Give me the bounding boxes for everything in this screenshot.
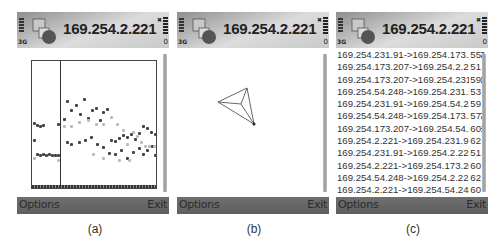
signal-strength-icon (338, 18, 343, 32)
data-point (114, 140, 117, 143)
data-point (106, 108, 109, 111)
data-point (122, 134, 125, 137)
data-point (33, 139, 36, 142)
data-point (75, 104, 78, 107)
caption-c: (c) (393, 222, 433, 236)
data-point (102, 146, 105, 149)
network-type: 3G (337, 38, 346, 45)
data-point (96, 143, 99, 146)
data-point (134, 138, 137, 141)
data-point (110, 139, 113, 142)
list-item[interactable]: 169.254.54.248->169.254.2.22162 (337, 172, 481, 184)
data-point (70, 109, 73, 112)
exit-button[interactable]: Exit (466, 198, 486, 211)
data-point (66, 100, 69, 103)
data-point (132, 151, 135, 154)
graph-node (253, 123, 256, 126)
data-point (126, 136, 129, 139)
data-point (102, 157, 105, 160)
indicator-icon: ✖ (476, 16, 481, 23)
data-point (146, 127, 149, 130)
graph-edge (218, 102, 254, 124)
list-item[interactable]: 169.254.231.91->169.254.173.20755 (337, 49, 481, 61)
list-item[interactable]: 169.254.173.207->169.254.231.9159 (337, 74, 481, 86)
options-button[interactable]: Options (179, 198, 219, 211)
topology-graph (177, 12, 323, 197)
softkey-bar: Options Exit (17, 197, 169, 214)
phone-screen-b: 3G 169.254.2.221 ✖0 Options Exit (177, 12, 329, 215)
status-header: 3G 169.254.2.221 ✖0 (17, 12, 169, 48)
list-item[interactable]: 169.254.173.207->169.254.2.22151 (337, 61, 481, 73)
network-type: 3G (18, 38, 27, 45)
list-item[interactable]: 169.254.231.91->169.254.54.24859 (337, 98, 481, 110)
data-point (92, 153, 95, 156)
data-point (70, 125, 73, 128)
battery-label: 0 (324, 38, 328, 46)
page-title: 169.254.2.221 (382, 20, 475, 37)
data-point (110, 116, 113, 119)
softkey-bar: Options Exit (177, 197, 329, 214)
data-point (84, 139, 87, 142)
data-point (153, 145, 156, 148)
battery-label: 0 (164, 38, 168, 46)
data-point (116, 123, 119, 126)
data-point (102, 111, 105, 114)
data-point (146, 149, 149, 152)
data-point (154, 154, 157, 157)
data-point (42, 124, 45, 127)
data-point (122, 129, 125, 132)
exit-button[interactable]: Exit (147, 198, 167, 211)
data-point (87, 119, 90, 122)
data-point (78, 141, 81, 144)
status-header: 3G 169.254.2.221 ✖0 (336, 12, 488, 48)
page-title: 169.254.2.221 (63, 20, 156, 37)
data-point (83, 98, 86, 101)
link-list: 169.254.231.91->169.254.173.20755 169.25… (337, 49, 481, 197)
scrollbar[interactable] (482, 54, 486, 192)
data-point (95, 107, 98, 110)
list-item[interactable]: 169.254.54.248->169.254.231.9153 (337, 86, 481, 98)
data-point (118, 159, 121, 162)
options-button[interactable]: Options (338, 198, 378, 211)
data-point (63, 118, 66, 121)
data-point (57, 154, 60, 157)
phone-screen-a: 3G 169.254.2.221 ✖0 Options Exit (17, 12, 169, 215)
list-item[interactable]: 169.254.2.221->169.254.54.24860 (337, 184, 481, 196)
scrollbar[interactable] (163, 54, 167, 192)
battery-icon (482, 17, 487, 35)
data-point (79, 113, 82, 116)
options-button[interactable]: Options (19, 198, 59, 211)
exit-button[interactable]: Exit (307, 198, 327, 211)
data-point (150, 131, 153, 134)
data-point (138, 147, 141, 150)
phone-screen-c: 3G 169.254.2.221 ✖0 169.254.231.91->169.… (336, 12, 488, 215)
data-point (154, 133, 157, 136)
rssi-dot-plot (31, 60, 157, 189)
data-point (66, 141, 69, 144)
list-item[interactable]: 169.254.2.221->169.254.173.20760 (337, 160, 481, 172)
data-point (102, 123, 105, 126)
data-point (91, 109, 94, 112)
data-point (136, 135, 139, 138)
list-item[interactable]: 169.254.173.207->169.254.54.24860 (337, 123, 481, 135)
list-item[interactable]: 169.254.231.91->169.254.2.22151 (337, 147, 481, 159)
data-point (132, 131, 135, 134)
caption-a: (a) (75, 222, 115, 236)
softkey-bar: Options Exit (336, 197, 488, 214)
app-puzzle-icon (29, 16, 61, 46)
data-point (90, 136, 93, 139)
data-point (63, 125, 66, 128)
scrollbar[interactable] (323, 54, 327, 192)
signal-strength-icon (19, 18, 24, 32)
list-item[interactable]: 169.254.54.248->169.254.173.20757 (337, 110, 481, 122)
list-item[interactable]: 169.254.2.221->169.254.231.9162 (337, 135, 481, 147)
data-point (57, 159, 60, 162)
battery-label: 0 (483, 38, 487, 46)
data-point (126, 143, 129, 146)
data-point (118, 137, 121, 140)
data-point (70, 143, 73, 146)
data-point (142, 153, 145, 156)
data-point (148, 145, 151, 148)
data-point (128, 159, 131, 162)
data-point (140, 141, 143, 144)
